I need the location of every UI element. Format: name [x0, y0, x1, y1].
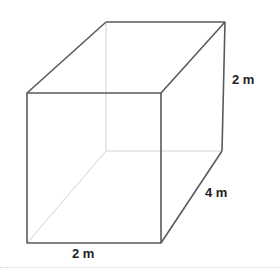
hidden-edge-bottom-left-depth [27, 151, 106, 243]
depth-label: 4 m [205, 186, 227, 200]
visible-edges [27, 22, 225, 243]
prism-drawing [0, 0, 280, 273]
height-label: 2 m [232, 73, 254, 87]
edge-top-left-depth [27, 22, 106, 93]
front-face [27, 93, 161, 243]
hidden-edges [27, 22, 222, 243]
edge-top-right-depth [161, 22, 225, 93]
width-label: 2 m [72, 247, 94, 261]
bottom-divider [0, 267, 280, 268]
edge-back-right-vertical [222, 22, 225, 151]
